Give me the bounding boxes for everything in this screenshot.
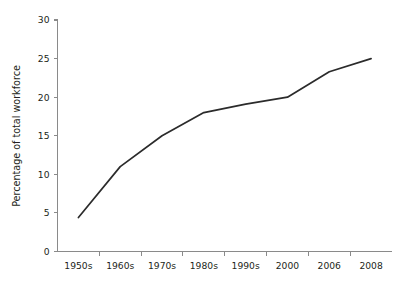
x-tick-label: 1950s xyxy=(64,260,92,271)
y-tick-label: 10 xyxy=(38,169,50,180)
chart-canvas: 051015202530 1950s1960s1970s1980s1990s20… xyxy=(0,0,403,289)
y-axis-title: Percentage of total workforce xyxy=(11,65,22,207)
x-tick-label: 1990s xyxy=(232,260,260,271)
y-tick-label: 25 xyxy=(38,53,50,64)
x-tick-label: 2008 xyxy=(359,260,383,271)
y-tick-label: 30 xyxy=(38,14,50,25)
y-tick-label: 5 xyxy=(44,207,50,218)
line-chart: 051015202530 1950s1960s1970s1980s1990s20… xyxy=(0,0,403,289)
x-tick-label: 2006 xyxy=(318,260,342,271)
y-tick-label: 0 xyxy=(44,246,50,257)
x-tick-label: 1970s xyxy=(148,260,176,271)
x-tick-label: 1960s xyxy=(106,260,134,271)
x-tick-label: 1980s xyxy=(190,260,218,271)
chart-background xyxy=(0,0,403,289)
x-tick-label: 2000 xyxy=(276,260,300,271)
y-tick-label: 20 xyxy=(38,92,50,103)
y-tick-label: 15 xyxy=(38,130,50,141)
